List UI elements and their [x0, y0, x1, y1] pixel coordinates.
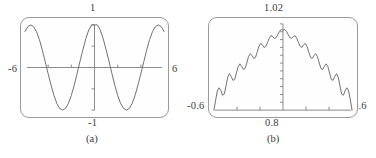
figure-panel-b: 1.02 -0.6 0.6 0.8 (b) [188, 0, 376, 158]
panel-a-bottom-label: -1 [88, 118, 97, 129]
panel-b-left-label: -0.6 [187, 101, 204, 112]
panel-b-graph-screen [208, 17, 358, 118]
panel-a-top-label: 1 [90, 3, 95, 14]
panel-a-plot [21, 18, 168, 117]
figure-row: 1 -6 6 -1 (a) 1.02 -0.6 0.6 0.8 (b) [0, 0, 376, 158]
panel-a-left-label: -6 [8, 64, 17, 75]
figure-panel-a: 1 -6 6 -1 (a) [0, 0, 188, 158]
panel-b-bottom-label: 0.8 [265, 118, 279, 129]
panel-a-right-label: 6 [172, 64, 177, 75]
panel-b-plot [209, 18, 357, 117]
panel-a-caption: (a) [86, 133, 98, 144]
panel-b-caption: (b) [267, 133, 279, 144]
panel-a-graph-screen [20, 17, 169, 118]
panel-b-top-label: 1.02 [264, 3, 283, 14]
